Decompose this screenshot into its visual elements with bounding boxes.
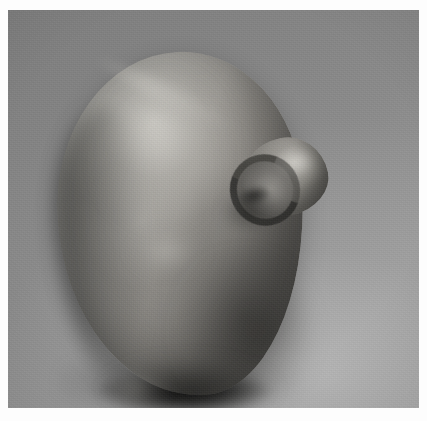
protruding-lobe [224,128,332,224]
image-frame: Tuber with protruding lobe potato flat n… [0,0,427,421]
photograph [8,10,419,408]
potato-object [52,48,308,398]
